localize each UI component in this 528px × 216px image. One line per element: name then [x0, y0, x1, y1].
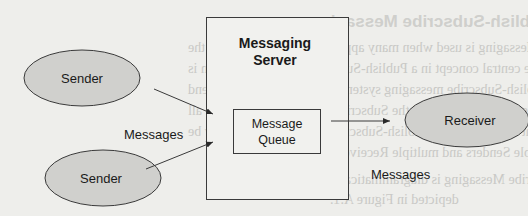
- queue-label-line1: Message: [252, 117, 303, 131]
- queue-label-line2: Queue: [258, 133, 296, 147]
- messaging-diagram: Messaging Server Message Queue Sender Se…: [0, 0, 528, 216]
- sender-label: Sender: [61, 71, 104, 86]
- diagram-canvas: Publish-Subscribe Messaging Publish-Subs…: [0, 0, 528, 216]
- message-queue-node: Message Queue: [234, 110, 321, 154]
- sender-node-2: Sender: [45, 150, 161, 206]
- arrow-sender2-to-server: [146, 142, 213, 169]
- sender-label: Sender: [80, 171, 123, 186]
- receiver-label: Receiver: [444, 113, 496, 128]
- messaging-server-node: Messaging Server: [207, 18, 349, 200]
- inbound-messages-label: Messages: [124, 127, 184, 142]
- outbound-messages-label: Messages: [371, 167, 431, 182]
- sender-node-1: Sender: [24, 50, 140, 106]
- arrow-sender1-to-server: [154, 89, 213, 114]
- server-label-line2: Server: [253, 52, 297, 68]
- server-label-line1: Messaging: [239, 35, 311, 51]
- receiver-node: Receiver: [405, 93, 528, 147]
